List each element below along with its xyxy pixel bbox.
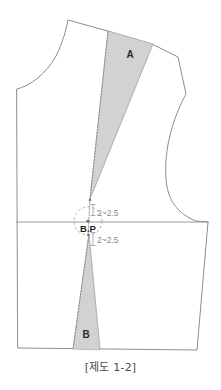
figure-caption: [제도 1-2] [0,358,221,374]
dimension-lower-label: 2~2.5 [97,235,119,245]
bust-point-label: B.P [80,223,97,234]
dimension-upper-label: 2~2.5 [97,208,119,218]
bodice-pattern-drawing: 2~2.5 2~2.5 A B B.P [0,0,221,390]
dart-a-apex-marker [89,199,92,202]
wedge-a-label: A [126,49,133,60]
pattern-diagram-figure: 2~2.5 2~2.5 A B B.P [제도 1-2] [0,0,221,390]
dart-b-apex-marker [87,234,90,237]
wedge-b-label: B [82,329,89,340]
